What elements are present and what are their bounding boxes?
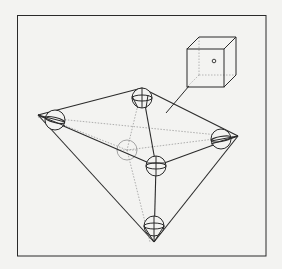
leader-line xyxy=(166,86,189,113)
node-top xyxy=(132,88,152,108)
node-right xyxy=(211,129,238,149)
cube-point xyxy=(212,59,216,63)
hidden-edges xyxy=(38,88,238,242)
node-front xyxy=(146,156,166,176)
figure xyxy=(0,0,282,269)
graph-diagram xyxy=(0,0,282,269)
solid-edges xyxy=(38,88,238,242)
inset-cube xyxy=(187,37,236,87)
